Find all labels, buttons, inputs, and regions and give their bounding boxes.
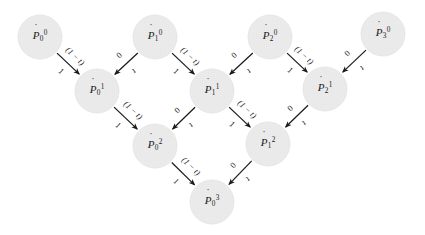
edge-p21-to-p12 bbox=[286, 105, 308, 127]
node-p12[interactable] bbox=[246, 122, 290, 166]
edge-p00-to-p01 bbox=[57, 53, 79, 74]
edge-p01-to-p02 bbox=[114, 107, 137, 129]
edge-p11-to-p02 bbox=[173, 107, 195, 129]
edge-p20-to-p11 bbox=[230, 53, 253, 74]
edge-p10-to-p11 bbox=[172, 53, 194, 74]
edge-p02-to-p03 bbox=[172, 162, 195, 184]
edge-p10-to-p01 bbox=[115, 53, 138, 74]
node-layer bbox=[18, 12, 405, 224]
node-texture bbox=[247, 123, 289, 165]
edge-p30-to-p21 bbox=[343, 50, 366, 72]
node-texture bbox=[134, 16, 176, 58]
node-texture bbox=[304, 68, 346, 110]
node-p10[interactable] bbox=[133, 15, 177, 59]
node-p00[interactable] bbox=[18, 15, 62, 59]
node-p30[interactable] bbox=[361, 12, 405, 56]
node-p20[interactable] bbox=[248, 15, 292, 59]
node-p11[interactable] bbox=[190, 69, 234, 113]
edge-p12-to-p03 bbox=[229, 161, 252, 184]
node-texture bbox=[19, 16, 61, 58]
graph-svg bbox=[0, 0, 425, 235]
node-texture bbox=[249, 16, 291, 58]
node-texture bbox=[76, 70, 118, 112]
edge-p11-to-p12 bbox=[229, 107, 250, 127]
node-p02[interactable] bbox=[133, 124, 177, 168]
node-p01[interactable] bbox=[75, 69, 119, 113]
node-p21[interactable] bbox=[303, 67, 347, 111]
edge-p20-to-p21 bbox=[287, 53, 307, 72]
node-texture bbox=[362, 13, 404, 55]
node-texture bbox=[191, 181, 233, 223]
node-texture bbox=[134, 125, 176, 167]
diagram-canvas: (1 − t)1t0(1 − t)1t0(1 − t)1t0(1 − t)1t0… bbox=[0, 0, 425, 235]
node-p03[interactable] bbox=[190, 180, 234, 224]
node-texture bbox=[191, 70, 233, 112]
